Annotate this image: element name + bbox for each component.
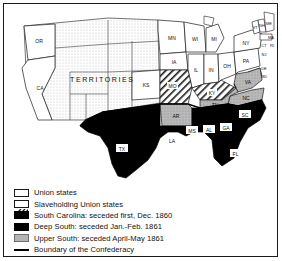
boundary-line-icon: [14, 249, 29, 251]
state-label-FL: FL: [233, 151, 239, 157]
state-CT: CT: [261, 43, 267, 48]
state-label-MI: MI: [211, 36, 217, 42]
state-label-IL: IL: [194, 67, 198, 73]
state-RI: RI: [270, 43, 274, 48]
state-label-KY: KY: [209, 90, 216, 96]
state-label-MO: MO: [168, 83, 176, 89]
state-label-LA: LA: [169, 138, 176, 144]
state-KS: KS: [132, 70, 160, 100]
state-AR: AR: [160, 104, 192, 126]
state-label-NJ: NJ: [262, 52, 267, 57]
state-label-WI: WI: [192, 36, 198, 42]
legend-label-deep-south: Deep South: seceded Jan.-Feb. 1861: [34, 222, 162, 231]
state-label-VA: VA: [245, 79, 252, 85]
state-label-ME: ME: [266, 21, 272, 26]
state-NJ: NJ: [262, 52, 267, 57]
state-label-OH: OH: [223, 63, 231, 69]
state-label-IN: IN: [209, 67, 214, 73]
legend-swatch-deep-south: [14, 223, 29, 231]
map-legend: Union states Slaveholding Union states S…: [14, 187, 276, 255]
state-MA: MA: [260, 34, 274, 40]
state-label-OR: OR: [35, 38, 43, 44]
state-label-KS: KS: [143, 82, 150, 88]
state-label-TX: TX: [119, 146, 126, 152]
state-MI: MI: [204, 16, 224, 52]
map-canvas: OR CA KS MN: [8, 8, 281, 186]
state-GA: GA: [220, 123, 232, 131]
state-label-VT: VT: [252, 25, 258, 30]
state-label-AR: AR: [173, 113, 180, 119]
state-TX: TX: [116, 144, 128, 152]
state-IA: IA: [160, 52, 188, 70]
legend-label-union: Union states: [34, 188, 77, 197]
state-label-CA: CA: [37, 85, 45, 91]
state-label-NC: NC: [242, 95, 250, 101]
state-label-SC: SC: [242, 112, 249, 118]
state-SC: SC: [239, 110, 251, 118]
united-states-map: OR CA KS MN: [8, 8, 281, 186]
legend-item-south-carolina: South Carolina: seceded first, Dec. 1860: [14, 210, 276, 221]
state-WI: WI: [184, 22, 206, 52]
legend-swatch-hatch: [14, 200, 29, 208]
state-label-RI: RI: [270, 43, 274, 48]
state-OH: OH: [218, 52, 236, 82]
state-MN: MN: [158, 20, 186, 54]
state-label-AL: AL: [206, 127, 212, 133]
state-label-MN: MN: [168, 35, 176, 41]
state-label-DE: DE: [261, 66, 267, 71]
legend-label-south-carolina: South Carolina: seceded first, Dec. 1860: [34, 211, 172, 220]
legend-item-slaveholding-union: Slaveholding Union states: [14, 198, 276, 209]
legend-item-union: Union states: [14, 187, 276, 198]
state-MS: MS: [186, 126, 198, 134]
state-label-IA: IA: [172, 59, 177, 65]
legend-swatch-south-carolina: [14, 211, 29, 219]
state-ME: ME: [264, 12, 274, 32]
state-OR: OR: [24, 24, 55, 60]
state-label-GA: GA: [222, 125, 230, 131]
legend-swatch-upper-south: [14, 234, 29, 242]
state-LA: LA: [166, 136, 178, 144]
legend-item-boundary: Boundary of the Confederacy: [14, 244, 276, 255]
state-AL: AL: [203, 125, 215, 133]
legend-label-upper-south: Upper South: seceded April-May 1861: [34, 234, 164, 243]
legend-item-upper-south: Upper South: seceded April-May 1861: [14, 233, 276, 244]
figure-frame: OR CA KS MN: [3, 3, 278, 257]
state-label-NY: NY: [243, 40, 251, 46]
legend-label-boundary: Boundary of the Confederacy: [34, 245, 134, 254]
state-label-NH: NH: [259, 23, 265, 28]
state-label-MA: MA: [268, 35, 274, 40]
state-MO: MO: [160, 70, 192, 104]
state-label-PA: PA: [243, 58, 250, 64]
state-label-CT: CT: [261, 43, 267, 48]
legend-label-slaveholding-union: Slaveholding Union states: [34, 200, 123, 209]
state-FL: FL: [230, 149, 241, 157]
legend-item-deep-south: Deep South: seceded Jan.-Feb. 1861: [14, 221, 276, 232]
legend-swatch-union: [14, 189, 29, 197]
territories-label: TERRITORIES: [70, 76, 135, 83]
legend-swatch-boundary: [14, 246, 29, 254]
map-figure: OR CA KS MN: [0, 0, 282, 261]
state-label-MS: MS: [188, 128, 196, 134]
state-IN: IN: [204, 54, 219, 84]
